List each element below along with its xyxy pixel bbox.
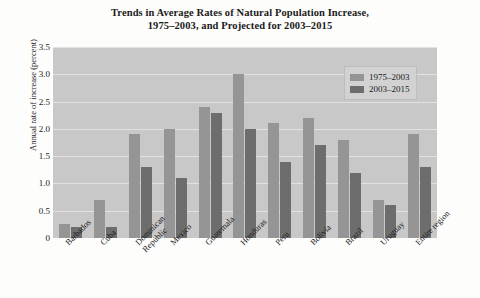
legend-label-series-1: 2003–2015 xyxy=(369,84,410,94)
legend-swatch-icon-series-0 xyxy=(350,74,364,81)
bar xyxy=(303,118,314,238)
y-axis-tick-2-5: 2.5 xyxy=(26,97,50,107)
bar-group xyxy=(53,47,88,238)
x-axis-tick-labels: BarbadosCubaDominicanRepublicMexicoGuate… xyxy=(53,240,437,298)
bar-group xyxy=(158,47,193,238)
legend-label-series-0: 1975–2003 xyxy=(369,72,410,82)
y-axis-tick-3: 3.0 xyxy=(26,69,50,79)
y-axis-tick-1-5: 1.5 xyxy=(26,151,50,161)
y-axis-tick-1: 1.0 xyxy=(26,178,50,188)
bar xyxy=(280,162,291,238)
bar-group xyxy=(123,47,158,238)
y-axis-tick-0: 0 xyxy=(26,233,50,243)
bar xyxy=(199,107,210,238)
bar-group xyxy=(193,47,228,238)
chart-title-line-1: Trends in Average Rates of Natural Popul… xyxy=(111,7,369,18)
y-axis-tick-2: 2.0 xyxy=(26,124,50,134)
bar xyxy=(211,113,222,239)
bar-group xyxy=(262,47,297,238)
bar-group xyxy=(297,47,332,238)
bar xyxy=(129,134,140,238)
y-axis-tick-0-5: 0.5 xyxy=(26,206,50,216)
y-axis-tick-labels: 3.53.02.52.01.51.00.50 xyxy=(26,41,50,239)
chart-title-line-2: 1975–2003, and Projected for 2003–2015 xyxy=(60,19,420,32)
page-margin-bleed-text xyxy=(467,28,479,248)
bar xyxy=(233,74,244,238)
bar xyxy=(94,200,105,238)
legend: 1975–2003 2003–2015 xyxy=(344,66,417,100)
bar xyxy=(268,123,279,238)
figure-page: Trends in Average Rates of Natural Popul… xyxy=(0,0,480,298)
bar-group xyxy=(88,47,123,238)
bar xyxy=(338,140,349,238)
bar xyxy=(408,134,419,238)
bar-group xyxy=(228,47,263,238)
chart-title: Trends in Average Rates of Natural Popul… xyxy=(60,6,420,32)
y-axis-tick-3-5: 3.5 xyxy=(26,42,50,52)
legend-swatch-icon-series-1 xyxy=(350,86,364,93)
legend-item-1: 2003–2015 xyxy=(350,83,410,95)
legend-item-0: 1975–2003 xyxy=(350,71,410,83)
bar xyxy=(373,200,384,238)
